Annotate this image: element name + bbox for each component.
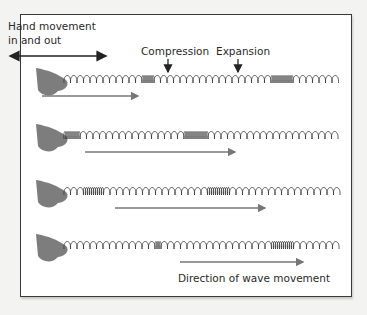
spring-coil [64,132,338,140]
diagram-graphics [0,0,367,315]
spring-row-4 [36,234,339,262]
hand-icon [36,68,68,95]
hand-icon [36,234,68,261]
spring-coil [64,242,339,250]
hand-icon [36,180,68,207]
hand-icon [36,124,68,151]
spring-row-1 [36,68,339,96]
spring-coil [64,76,339,84]
spring-row-2 [36,124,338,152]
spring-coil [64,188,340,196]
spring-row-3 [36,180,340,208]
